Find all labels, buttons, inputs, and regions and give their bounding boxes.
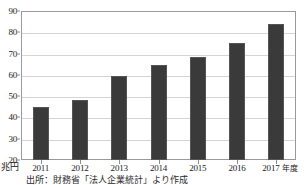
bar (151, 65, 167, 160)
bar (72, 100, 88, 160)
bar (111, 76, 127, 160)
y-tick-mark (16, 160, 20, 161)
y-tick-mark (16, 11, 20, 12)
y-tick-mark (16, 96, 20, 97)
bar (268, 24, 284, 160)
x-axis-unit-suffix: 年度 (280, 164, 298, 173)
y-tick-mark (16, 32, 20, 33)
x-axis: 2011201220132014201520162017 年度 (21, 160, 296, 174)
y-tick-mark (16, 74, 20, 75)
bar (229, 43, 245, 161)
x-tick-label: 2013 (111, 163, 128, 173)
chart-figure: 2030405060708090 兆円 20112012201320142015… (0, 0, 307, 185)
bar (33, 107, 49, 160)
y-tick-mark (16, 117, 20, 118)
x-tick-label: 2015 (189, 163, 206, 173)
x-tick-label: 2016 (228, 163, 245, 173)
bar (190, 57, 206, 160)
x-tick-label: 2017 年度 (262, 163, 297, 174)
bar-series (21, 11, 296, 160)
y-axis: 2030405060708090 (0, 11, 19, 160)
x-tick-label: 2012 (71, 163, 88, 173)
y-tick-mark (16, 53, 20, 54)
x-tick-label: 2011 (32, 163, 49, 173)
y-tick-mark (16, 138, 20, 139)
source-caption: 出所：財務省「法人企業統計」より作成 (26, 175, 307, 185)
x-tick-label: 2014 (150, 163, 167, 173)
y-axis-unit-label: 兆円 (1, 162, 19, 172)
